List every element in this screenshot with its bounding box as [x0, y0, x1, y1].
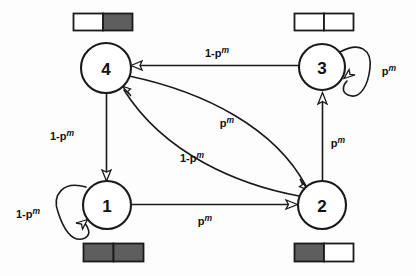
node-3-label: 3 [317, 59, 326, 78]
edge-3-to-4-label-base: 1-p [205, 47, 222, 59]
register-node-1-cell-1 [114, 244, 144, 262]
node-1[interactable]: 1 [83, 181, 131, 229]
edge-3-to-4-label: 1-pm [205, 45, 230, 59]
register-node-2-cell-0 [295, 244, 325, 262]
diagram-canvas: 1-pm pm 1-pm 1-pm [0, 0, 416, 276]
node-2-label: 2 [317, 197, 326, 216]
edge-2-to-4-label-sup: m [196, 150, 204, 160]
node-4[interactable]: 4 [81, 43, 131, 93]
edge-3-to-4: 1-pm [131, 45, 299, 70]
edge-1-to-2: pm [131, 200, 298, 227]
edge-1-self-loop-label-sup: m [32, 206, 40, 216]
edge-4-to-2-label: pm [220, 115, 235, 129]
node-4-label: 4 [101, 60, 111, 79]
edge-3-self-loop-label: pm [382, 63, 397, 77]
register-node-3-cell-0 [295, 14, 325, 31]
edge-3-self-loop-label-sup: m [389, 63, 397, 73]
register-node-1 [84, 244, 144, 262]
register-node-4 [74, 14, 133, 31]
node-1-label: 1 [102, 197, 111, 216]
edge-1-to-2-label-sup: m [205, 213, 213, 223]
register-node-3-cell-1 [324, 14, 354, 31]
edge-2-to-3-label: pm [331, 135, 346, 149]
register-node-3 [295, 14, 354, 31]
edge-4-to-1-label-sup: m [66, 128, 74, 138]
edge-1-to-2-label: pm [198, 213, 213, 227]
register-node-1-cell-0 [84, 244, 114, 262]
edge-1-self-loop: 1-pm [16, 185, 89, 239]
register-node-4-cell-0 [74, 14, 104, 31]
edge-3-self-loop: pm [340, 47, 397, 96]
edge-2-to-4-label-base: 1-p [180, 152, 197, 164]
edge-4-to-2: pm [129, 76, 308, 190]
edge-4-to-1-label: 1-pm [50, 128, 75, 142]
register-node-2 [295, 244, 354, 262]
edge-4-to-1-label-base: 1-p [50, 130, 67, 142]
edge-1-self-loop-label-base: 1-p [16, 208, 33, 220]
edge-3-to-4-label-sup: m [221, 45, 229, 55]
edge-3-to-4-arrowhead [131, 61, 142, 70]
node-2[interactable]: 2 [298, 181, 346, 229]
edge-4-to-1: 1-pm [50, 93, 111, 181]
edge-2-to-3-label-sup: m [338, 135, 346, 145]
edge-4-to-2-label-sup: m [227, 115, 235, 125]
node-3[interactable]: 3 [299, 44, 345, 90]
state-transition-diagram: 1-pm pm 1-pm 1-pm [0, 0, 416, 276]
register-node-2-cell-1 [324, 244, 354, 262]
register-node-4-cell-1 [103, 14, 133, 31]
edge-1-self-loop-label: 1-pm [16, 206, 41, 220]
edge-2-to-3: pm [318, 93, 346, 182]
edge-4-to-1-arrowhead [102, 170, 111, 181]
